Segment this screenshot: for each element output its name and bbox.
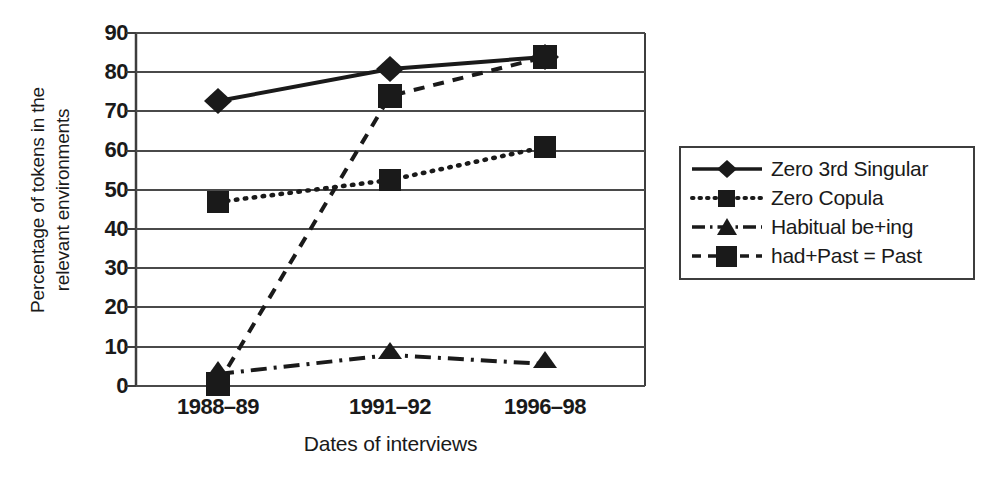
data-point-marker <box>533 351 557 368</box>
legend-label-zero-copula: Zero Copula <box>764 186 883 210</box>
legend-label-zero-3rd-singular: Zero 3rd Singular <box>764 157 928 181</box>
y-axis-ticks <box>126 33 136 386</box>
data-point-marker <box>534 136 556 158</box>
chart-figure: Percentage of tokens in the relevant env… <box>0 0 985 477</box>
legend-label-had-past-equals-past: had+Past = Past <box>764 244 922 268</box>
legend-label-habitual-be-ing: Habitual be+ing <box>764 215 913 239</box>
legend-item-zero-3rd-singular: Zero 3rd Singular <box>681 154 973 183</box>
legend-item-had-past-equals-past: had+Past = Past <box>681 241 973 270</box>
data-point-marker <box>379 169 401 191</box>
legend-item-zero-copula: Zero Copula <box>681 183 973 212</box>
data-point-marker <box>378 84 402 108</box>
data-point-marker <box>378 342 402 359</box>
legend-swatch-dotted-square <box>690 186 764 210</box>
chart-legend: Zero 3rd Singular Zero Copula Habitual b… <box>679 146 975 280</box>
data-point-marker <box>207 191 229 213</box>
legend-item-habitual-be-ing: Habitual be+ing <box>681 212 973 241</box>
series-had-past-equals-past <box>206 45 557 396</box>
data-point-marker <box>206 361 230 378</box>
legend-swatch-dashed-square <box>690 244 764 268</box>
legend-swatch-solid-diamond <box>690 157 764 181</box>
series-zero-copula <box>207 136 556 213</box>
legend-swatch-dashdot-triangle <box>690 215 764 239</box>
data-point-marker <box>376 56 404 82</box>
